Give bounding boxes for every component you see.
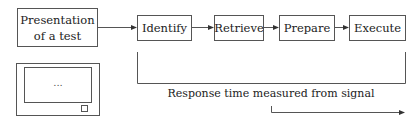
step-execute: Execute [350,16,406,41]
arrowhead-icon [131,25,137,30]
step-retrieve: Retrieve [214,16,264,41]
arrow-stimulus-to-identify [98,25,138,30]
step-prepare: Prepare [280,16,335,41]
stimulus-box: Presentation of a test [18,9,98,47]
stimulus-label-line1: Presentation [20,13,95,27]
step-execute-label: Execute [354,21,401,35]
signal-arrow [272,106,406,115]
arrow-prepare-to-execute [335,25,350,30]
arrow-retrieve-to-prepare [264,25,280,30]
step-prepare-label: Prepare [284,21,331,35]
step-identify-label: Identify [142,21,188,35]
arrow-identify-to-retrieve [192,25,215,30]
monitor-button-icon [82,106,88,112]
response-time-bracket [138,52,406,84]
monitor-icon: ... [17,64,100,116]
response-time-diagram: Presentation of a test Identify Retrieve… [0,0,420,124]
step-retrieve-label: Retrieve [214,21,264,35]
step-identify: Identify [138,16,192,41]
monitor-screen-text: ... [53,77,63,88]
arrowhead-icon [208,25,214,30]
arrowhead-icon [273,25,279,30]
arrowhead-icon [343,25,349,30]
bracket-caption: Response time measured from signal [168,87,375,100]
stimulus-label-line2: of a test [34,29,82,43]
arrowhead-icon [399,110,405,115]
